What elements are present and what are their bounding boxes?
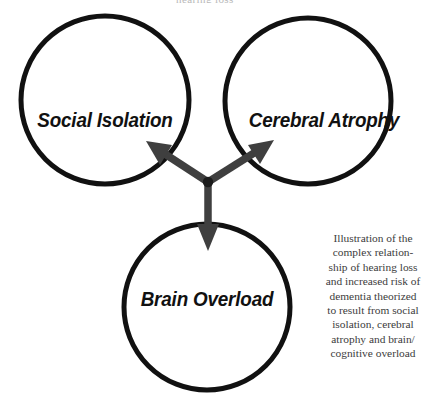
node-label-brain-overload: Brain Overload: [112, 287, 302, 311]
caption-line: to result from social: [312, 303, 434, 317]
caption-line: cognitive overload: [312, 346, 434, 360]
circle-social-isolation: [21, 16, 189, 184]
arrow-to-brain-overload-icon: [197, 182, 219, 251]
caption-line: atrophy and brain/: [312, 332, 434, 346]
caption-line: complex relation-: [312, 245, 434, 259]
caption-line: Illustration of the: [312, 231, 434, 245]
figure-caption: Illustration of thecomplex relation-ship…: [312, 231, 434, 361]
node-label-cerebral-atrophy: Cerebral Atrophy: [222, 108, 426, 132]
caption-line: and increased risk of: [312, 274, 434, 288]
diagram-figure: hearing loss Soc: [0, 0, 435, 405]
caption-line: isolation, cerebral: [312, 317, 434, 331]
arrow-hub-dot: [203, 177, 213, 187]
caption-line: ship of hearing loss: [312, 260, 434, 274]
node-label-social-isolation: Social Isolation: [8, 108, 201, 132]
caption-line: dementia theorized: [312, 289, 434, 303]
